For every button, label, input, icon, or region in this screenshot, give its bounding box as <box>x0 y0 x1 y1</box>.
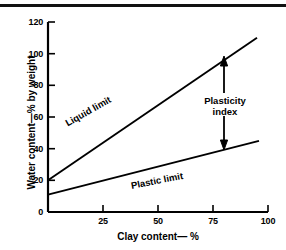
x-tick-label-50: 50 <box>153 216 163 226</box>
x-tick-label-75: 75 <box>208 216 218 226</box>
y-tick-label-0: 0 <box>18 207 43 217</box>
annotation-plasticity-index-line1: Plasticity <box>196 95 254 106</box>
x-tick-label-100: 100 <box>261 216 275 226</box>
x-axis-title: Clay content— % <box>48 231 268 242</box>
y-tick-label-120: 120 <box>18 17 43 27</box>
figure: 120 100 80 60 40 20 0 25 50 75 100 Water… <box>0 0 286 250</box>
annotation-plasticity-index-line2: index <box>196 106 254 117</box>
annotation-plasticity-index: Plasticity index <box>196 95 254 117</box>
y-axis-title: Water content—% by weight <box>26 38 37 208</box>
x-tick-label-25: 25 <box>98 216 108 226</box>
